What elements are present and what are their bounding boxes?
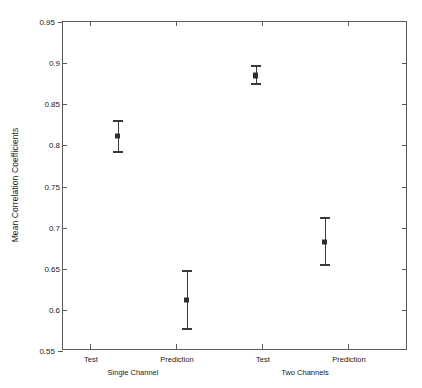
data-point-marker [115,133,120,138]
error-bar-cap-lower [113,151,123,153]
y-tick-right-7 [402,310,406,311]
x-tick-0: Test [90,344,91,349]
y-tick-label-8: 0.55 [39,348,55,356]
error-bar-cap-lower [320,264,330,266]
group-label-single-channel: Single Channel [108,369,159,377]
y-tick-label-7: 0.6 [49,307,60,315]
y-tick-right-6 [402,269,406,270]
y-tick-0: 0.95 [58,22,63,23]
x-tick-label-1: Prediction [160,356,193,364]
error-bar-cap-lower [182,328,192,330]
x-tick-3: Prediction [348,344,349,349]
error-bar-cap-upper [320,217,330,219]
group-label-two-channels: Two Channels [281,369,329,377]
y-tick-label-1: 0.9 [49,60,60,68]
y-tick-2: 0.85 [63,104,67,105]
y-tick-3: 0.8 [63,145,67,146]
x-tick-label-2: Test [256,356,270,364]
error-bar-cap-lower [251,83,261,85]
y-tick-label-3: 0.8 [49,142,60,150]
y-tick-label-2: 0.85 [44,101,60,109]
y-tick-right-3 [402,145,406,146]
y-tick-label-5: 0.7 [49,225,60,233]
y-axis-title: Mean Correlation Coefficients [10,128,20,243]
x-tick-top-3 [348,22,349,26]
data-point-marker [184,297,189,302]
y-tick-right-4 [402,187,406,188]
x-tick-label-3: Prediction [332,356,365,364]
y-tick-5: 0.7 [63,228,67,229]
x-tick-1: Prediction [176,344,177,349]
x-tick-top-1 [176,22,177,26]
error-bar-cap-upper [182,270,192,272]
y-tick-7: 0.6 [63,310,67,311]
x-tick-top-0 [90,22,91,26]
data-point-marker [322,239,327,244]
y-tick-6: 0.65 [63,269,67,270]
y-tick-right-5 [402,228,406,229]
error-bar-cap-upper [251,65,261,67]
y-tick-1: 0.9 [63,63,67,64]
chart-figure: Mean Correlation Coefficients 0.95 0.9 0… [0,0,422,388]
y-tick-right-1 [402,63,406,64]
x-tick-2: Test [262,344,263,349]
y-tick-right-2 [402,104,406,105]
data-point-marker [253,73,258,78]
y-tick-label-0: 0.95 [39,19,55,27]
y-tick-label-6: 0.65 [44,266,60,274]
plot-area: 0.95 0.9 0.85 0.8 0.75 0.7 0.65 0.6 [62,21,407,350]
y-tick-label-4: 0.75 [44,184,60,192]
x-tick-top-2 [262,22,263,26]
x-tick-label-0: Test [84,356,98,364]
error-bar-cap-upper [113,120,123,122]
y-tick-4: 0.75 [63,187,67,188]
y-tick-8: 0.55 [58,351,63,352]
